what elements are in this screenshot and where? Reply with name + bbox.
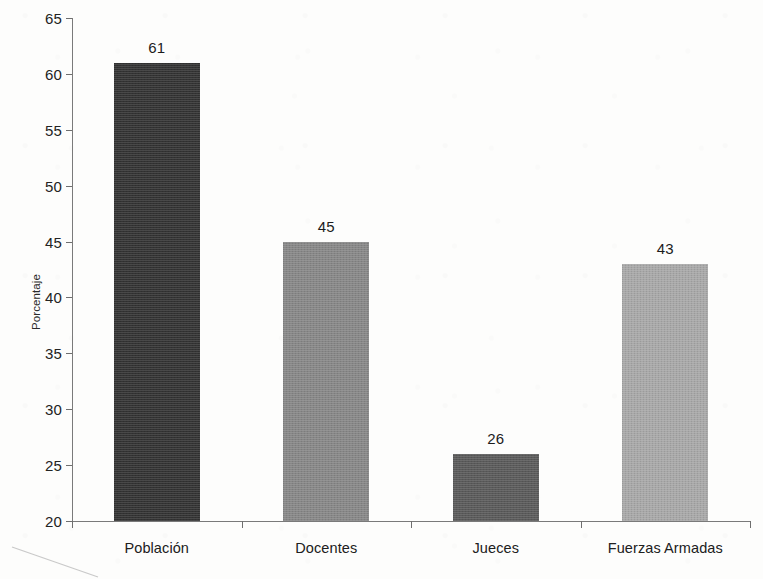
bar [114,63,200,521]
y-axis-tick-label: 25 [28,457,62,474]
bar [622,264,708,521]
x-axis-tick-mark [750,521,751,528]
y-axis-tick-label: 50 [28,177,62,194]
bar-scan-texture [114,63,200,521]
bar-scan-texture [283,242,369,521]
bar [453,454,539,521]
x-axis-tick-mark [72,521,73,528]
bar-value-label: 61 [148,39,165,56]
bar-scan-texture [453,454,539,521]
x-axis-category-label: Docentes [295,540,357,556]
bar-value-label: 45 [318,218,335,235]
x-axis-category-label: Jueces [472,540,519,556]
y-axis-tick-label: 30 [28,401,62,418]
y-axis-tick-label: 60 [28,65,62,82]
x-axis-tick-mark [581,521,582,528]
y-axis-tick-label: 20 [28,513,62,530]
x-axis-tick-mark [411,521,412,528]
y-axis-tick-label: 45 [28,233,62,250]
bar-scan-texture [622,264,708,521]
y-axis-line [72,18,73,522]
y-axis-tick-label: 55 [28,121,62,138]
y-axis-tick-label: 35 [28,345,62,362]
bar-value-label: 26 [487,430,504,447]
y-axis-tick-label: 65 [28,10,62,27]
x-axis-tick-mark [242,521,243,528]
y-axis-tick-label: 40 [28,289,62,306]
bar-chart: Porcentaje 20253035404550556065 61452643… [0,0,763,579]
bar [283,242,369,521]
x-axis-category-label: Población [124,540,189,556]
scan-artifact-line [10,545,102,579]
x-axis-category-label: Fuerzas Armadas [608,540,723,556]
bar-value-label: 43 [657,240,674,257]
